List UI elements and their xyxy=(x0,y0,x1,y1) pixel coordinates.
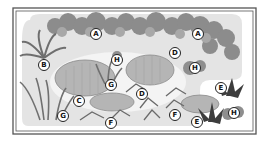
label-g-1: G xyxy=(105,79,117,91)
garden-plan-diagram: A A B D H H G C D E G F F E H xyxy=(0,0,268,142)
label-d-2: D xyxy=(136,88,148,100)
label-b: B xyxy=(38,59,50,71)
label-h-3: H xyxy=(228,107,240,119)
label-e-2: E xyxy=(191,116,203,128)
label-h-1: H xyxy=(111,54,123,66)
label-e-1: E xyxy=(215,82,227,94)
label-f-2: F xyxy=(169,109,181,121)
label-c: C xyxy=(73,95,85,107)
rock-small-center xyxy=(90,93,134,111)
label-g-2: G xyxy=(57,110,69,122)
rock-large-right xyxy=(126,55,174,85)
label-h-2: H xyxy=(189,62,201,74)
label-a-2: A xyxy=(192,28,204,40)
garden-illustration xyxy=(0,0,268,142)
label-d-1: D xyxy=(169,47,181,59)
label-f-1: F xyxy=(105,117,117,129)
label-a-1: A xyxy=(90,28,102,40)
